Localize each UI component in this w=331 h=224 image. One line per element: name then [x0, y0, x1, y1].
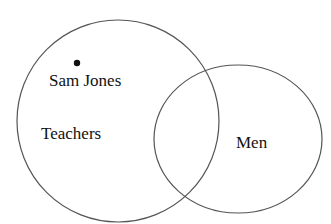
men-label: Men — [236, 133, 268, 152]
teachers-circle — [17, 20, 219, 222]
sam-jones-point — [74, 60, 80, 66]
venn-diagram: Sam Jones Teachers Men — [0, 0, 331, 224]
teachers-label: Teachers — [41, 124, 101, 143]
venn-svg: Sam Jones Teachers Men — [0, 0, 331, 224]
sam-jones-label: Sam Jones — [49, 71, 121, 90]
